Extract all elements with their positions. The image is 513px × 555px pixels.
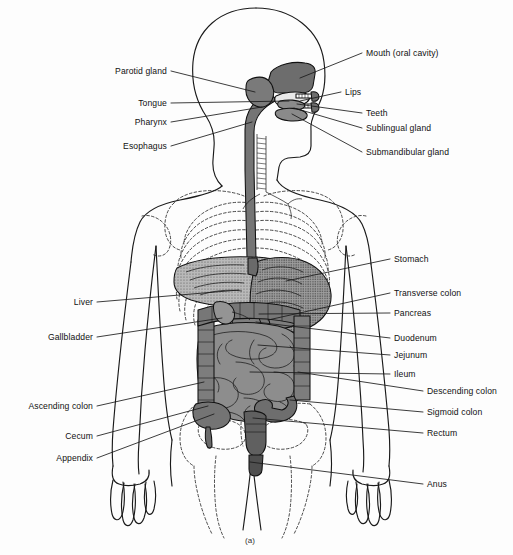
label-appendix: Appendix xyxy=(56,453,93,463)
organ-ascending-colon xyxy=(198,320,214,410)
label-parotid-gland: Parotid gland xyxy=(115,66,167,76)
label-ileum: Ileum xyxy=(394,369,416,379)
label-transverse-colon: Transverse colon xyxy=(394,288,461,298)
label-pancreas: Pancreas xyxy=(394,308,431,318)
organ-appendix xyxy=(205,427,212,448)
label-sublingual-gland: Sublingual gland xyxy=(366,123,431,133)
label-descending-colon: Descending colon xyxy=(427,386,497,396)
label-mouth-oral-cavity: Mouth (oral cavity) xyxy=(366,48,439,58)
label-gallbladder: Gallbladder xyxy=(48,332,93,342)
label-jejunum: Jejunum xyxy=(394,350,427,360)
label-duodenum: Duodenum xyxy=(394,333,437,343)
label-liver: Liver xyxy=(74,297,93,307)
digestive-system-figure: Parotid glandTonguePharynxEsophagusLiver… xyxy=(0,0,513,555)
label-pharynx: Pharynx xyxy=(135,117,168,127)
label-rectum: Rectum xyxy=(427,428,457,438)
label-tongue: Tongue xyxy=(138,98,167,108)
organ-anus xyxy=(249,455,263,476)
label-cecum: Cecum xyxy=(65,431,93,441)
label-esophagus: Esophagus xyxy=(123,141,167,151)
label-lips: Lips xyxy=(345,87,361,97)
label-ascending-colon: Ascending colon xyxy=(28,401,93,411)
label-anus: Anus xyxy=(427,479,447,489)
esophagus-cardia xyxy=(248,258,258,276)
figure-caption: (a) xyxy=(245,536,255,545)
label-submandibular-gland: Submandibular gland xyxy=(366,147,449,157)
label-sigmoid-colon: Sigmoid colon xyxy=(427,407,482,417)
label-teeth: Teeth xyxy=(366,108,388,118)
label-stomach: Stomach xyxy=(394,254,429,264)
organ-descending-colon xyxy=(294,316,310,400)
